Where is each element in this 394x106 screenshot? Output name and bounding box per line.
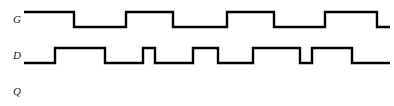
waveform-d [24,48,390,63]
timing-diagram: G D Q [0,0,394,106]
waveform-canvas [0,0,394,106]
waveform-g [24,12,390,27]
